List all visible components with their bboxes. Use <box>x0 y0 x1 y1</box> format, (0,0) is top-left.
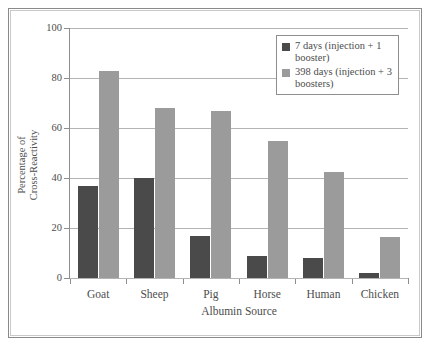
y-axis-title-line-1: Percentage of <box>16 90 28 240</box>
y-axis-tick-label-100: 100 <box>36 23 62 33</box>
x-axis-tick-2 <box>183 279 184 284</box>
bar-human-series-1 <box>324 172 344 278</box>
gridline-100 <box>70 28 408 29</box>
legend-swatch-icon-series-1 <box>282 69 290 77</box>
bar-horse-series-0 <box>247 256 267 279</box>
x-axis-tick-4 <box>295 279 296 284</box>
y-axis-tick-60 <box>64 128 69 129</box>
bar-chicken-series-1 <box>380 237 400 278</box>
chart-legend: 7 days (injection + 1 booster) 398 days … <box>276 35 399 95</box>
y-axis-tick-label-0: 0 <box>36 273 62 283</box>
x-axis-label-horse: Horse <box>239 288 295 301</box>
y-axis-title-line-2: Cross-Reactivity <box>28 90 40 240</box>
y-axis-title: Percentage of Cross-Reactivity <box>16 90 40 240</box>
bar-human-series-0 <box>303 258 323 278</box>
legend-label-series-1-line-1: 398 days (injection <box>295 66 375 77</box>
bar-chicken-series-0 <box>359 273 379 278</box>
x-axis-label-goat: Goat <box>70 288 126 301</box>
y-axis-tick-label-80: 80 <box>36 73 62 83</box>
y-axis-tick-100 <box>64 28 69 29</box>
y-axis-tick-80 <box>64 78 69 79</box>
legend-label-series-1: 398 days (injection + 3 boosters) <box>295 66 393 90</box>
legend-swatch-icon-series-0 <box>282 43 290 51</box>
bar-sheep-series-0 <box>134 178 154 278</box>
gridline-40 <box>70 178 408 179</box>
x-axis-label-sheep: Sheep <box>126 288 182 301</box>
x-axis-label-human: Human <box>295 288 351 301</box>
legend-label-series-0: 7 days (injection + 1 booster) <box>295 40 393 64</box>
y-axis-tick-40 <box>64 178 69 179</box>
bar-horse-series-1 <box>268 141 288 279</box>
legend-item-series-0: 7 days (injection + 1 booster) <box>282 40 393 64</box>
legend-label-series-0-line-1: 7 days (injection + <box>295 40 374 51</box>
x-axis-tick-6 <box>408 279 409 284</box>
bar-chart: 020406080100 Percentage of Cross-Reactiv… <box>0 0 432 348</box>
bar-pig-series-0 <box>190 236 210 279</box>
x-axis-tick-0 <box>70 279 71 284</box>
x-axis-tick-1 <box>126 279 127 284</box>
x-axis-tick-5 <box>352 279 353 284</box>
gridline-60 <box>70 128 408 129</box>
gridline-20 <box>70 228 408 229</box>
y-axis-tick-20 <box>64 228 69 229</box>
bar-sheep-series-1 <box>155 108 175 278</box>
bar-pig-series-1 <box>211 111 231 279</box>
x-axis-title: Albumin Source <box>70 305 408 317</box>
y-axis-tick-0 <box>64 278 69 279</box>
bar-goat-series-0 <box>78 186 98 279</box>
bar-goat-series-1 <box>99 71 119 279</box>
x-axis-label-pig: Pig <box>183 288 239 301</box>
x-axis-tick-3 <box>239 279 240 284</box>
x-axis-label-chicken: Chicken <box>352 288 408 301</box>
legend-item-series-1: 398 days (injection + 3 boosters) <box>282 66 393 90</box>
